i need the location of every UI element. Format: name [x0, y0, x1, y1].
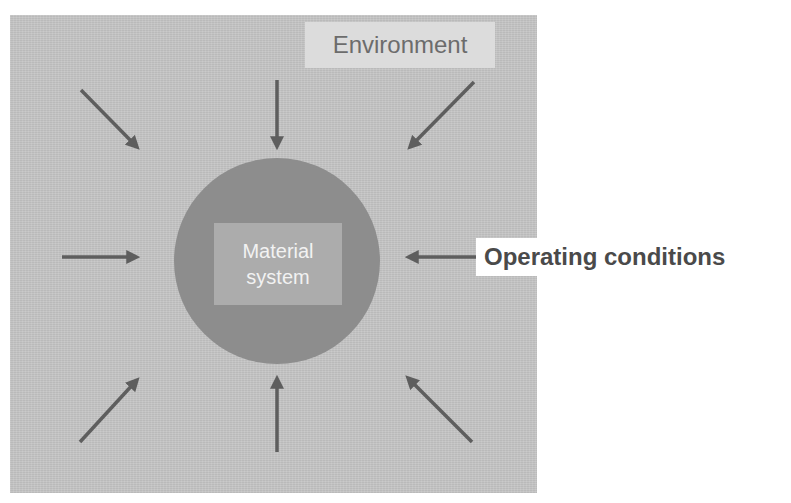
arrow-top-left-icon	[81, 90, 136, 146]
arrow-top-right-icon	[411, 82, 474, 146]
operating-conditions-label: Operating conditions	[476, 238, 725, 276]
arrow-bottom-right-icon	[409, 379, 472, 442]
arrow-bottom-left-icon	[80, 381, 136, 442]
